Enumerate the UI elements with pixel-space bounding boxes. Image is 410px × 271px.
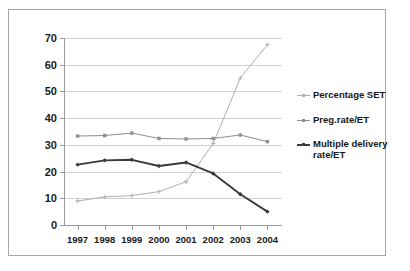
x-axis-tick-label: 1999: [121, 234, 142, 245]
series-layer: [64, 38, 282, 226]
legend-marker-icon: [297, 143, 310, 146]
y-axis-tick-label: 70: [45, 32, 57, 44]
data-point: [184, 137, 187, 140]
data-point: [75, 162, 79, 166]
legend-item-1[interactable]: Percentage SET: [297, 90, 393, 101]
x-axis-tick-label: 1997: [67, 234, 88, 245]
data-point: [211, 137, 214, 140]
x-axis-tick: [213, 226, 214, 230]
series-line: [78, 160, 268, 212]
y-axis-tick-label: 0: [51, 219, 57, 231]
x-axis-tick-label: 1998: [94, 234, 115, 245]
data-point: [102, 195, 106, 199]
series-1: [75, 42, 269, 203]
data-point: [130, 158, 134, 162]
x-axis-tick-label: 2003: [230, 234, 251, 245]
data-point: [239, 133, 242, 136]
legend-item-2[interactable]: Preg.rate/ET: [297, 115, 393, 126]
data-point: [103, 134, 106, 137]
x-axis-tick: [132, 226, 133, 230]
legend-marker-icon: [297, 119, 310, 122]
y-axis-tick-label: 40: [45, 112, 57, 124]
y-axis-tick-label: 10: [45, 192, 57, 204]
x-axis-tick: [240, 226, 241, 230]
data-point: [157, 189, 161, 193]
chart-frame: 010203040506070 199719981999200020012002…: [8, 9, 386, 256]
data-point: [102, 158, 106, 162]
legend-item-3[interactable]: Multiple delivery rate/ET: [297, 139, 393, 160]
series-3: [75, 158, 269, 214]
y-axis-tick-label: 30: [45, 139, 57, 151]
x-axis-tick: [159, 226, 160, 230]
x-axis-tick: [267, 226, 268, 230]
x-axis-tick-label: 2004: [257, 234, 278, 245]
data-point: [266, 140, 269, 143]
legend-label: Preg.rate/ET: [313, 114, 369, 125]
legend-marker-icon: [297, 94, 310, 97]
data-point: [75, 199, 79, 203]
data-point: [157, 137, 160, 140]
data-point: [157, 164, 161, 168]
x-axis-tick: [78, 226, 79, 230]
x-axis-tick: [105, 226, 106, 230]
x-axis-tick-label: 2001: [175, 234, 196, 245]
x-axis-tick: [186, 226, 187, 230]
y-axis-tick-label: 50: [45, 85, 57, 97]
x-axis-tick-label: 2000: [148, 234, 169, 245]
series-line: [78, 45, 268, 201]
y-axis-tick-label: 60: [45, 59, 57, 71]
series-2: [76, 131, 269, 143]
chart-legend: Percentage SETPreg.rate/ETMultiple deliv…: [297, 90, 393, 174]
data-point: [76, 134, 79, 137]
legend-label: Percentage SET: [313, 89, 385, 100]
plot-area: 010203040506070 199719981999200020012002…: [64, 38, 281, 225]
data-point: [130, 193, 134, 197]
data-point: [130, 131, 133, 134]
x-axis-tick-label: 2002: [203, 234, 224, 245]
y-axis-tick-label: 20: [45, 166, 57, 178]
legend-label: Multiple delivery rate/ET: [313, 138, 387, 160]
